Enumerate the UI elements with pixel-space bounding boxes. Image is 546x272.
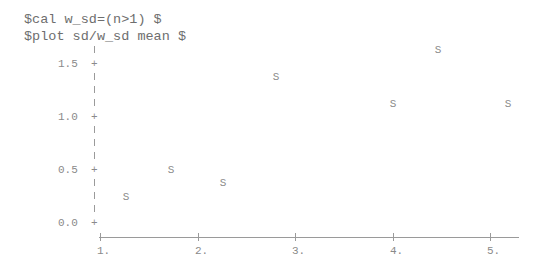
data-point: S — [435, 44, 442, 56]
x-tick-label: 3. — [292, 245, 305, 257]
x-axis-line — [99, 237, 519, 238]
data-point: S — [505, 98, 512, 110]
data-point: S — [390, 98, 397, 110]
data-point: S — [220, 177, 227, 189]
x-tick-label: 5. — [487, 245, 500, 257]
y-axis-segment — [94, 99, 95, 106]
x-tick-mark — [295, 233, 296, 241]
y-axis-segment — [94, 126, 95, 133]
data-point: S — [273, 71, 280, 83]
y-tick-mark: + — [91, 58, 98, 70]
y-axis-segment — [94, 73, 95, 80]
x-tick-mark — [490, 233, 491, 241]
data-point: S — [123, 191, 130, 203]
x-tick-mark — [100, 233, 101, 241]
y-tick-label: 1.0 — [58, 111, 78, 123]
y-tick-mark: + — [91, 217, 98, 229]
x-tick-label: 1. — [97, 245, 110, 257]
scatter-plot: + + + + 1.5 1.0 0.5 0.0 1. 2. 3. 4. 5. S… — [0, 0, 546, 272]
y-axis-segment — [94, 46, 95, 53]
y-axis-segment — [94, 152, 95, 159]
y-tick-label: 0.5 — [58, 164, 78, 176]
x-tick-mark — [198, 233, 199, 241]
y-axis-segment — [94, 86, 95, 93]
y-tick-label: 1.5 — [58, 58, 78, 70]
y-axis-segment — [94, 192, 95, 199]
y-tick-mark: + — [91, 111, 98, 123]
y-tick-mark: + — [91, 164, 98, 176]
y-axis-segment — [94, 205, 95, 212]
y-tick-label: 0.0 — [58, 217, 78, 229]
x-tick-mark — [393, 233, 394, 241]
data-point: S — [168, 164, 175, 176]
x-tick-label: 4. — [390, 245, 403, 257]
x-tick-label: 2. — [195, 245, 208, 257]
y-axis-segment — [94, 139, 95, 146]
y-axis-segment — [94, 179, 95, 186]
